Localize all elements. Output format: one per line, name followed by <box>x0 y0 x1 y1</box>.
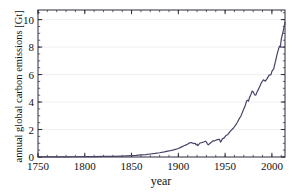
x-tick-label: 1900 <box>167 161 189 172</box>
y-axis-label: annual global carbon emissions [Gt] <box>13 13 24 163</box>
chart-figure: 0246810 175018001850190019502000 year an… <box>0 0 295 193</box>
x-tick-label: 1750 <box>27 161 49 172</box>
data-series-line <box>38 22 285 157</box>
plot-frame <box>38 10 285 157</box>
x-tick-label: 1800 <box>74 161 96 172</box>
x-tick-label: 1850 <box>121 161 143 172</box>
axis-major-ticks <box>38 10 285 157</box>
gridlines <box>39 20 284 130</box>
x-tick-label: 2000 <box>261 161 283 172</box>
x-axis-label: year <box>151 174 172 189</box>
x-tick-label: 1950 <box>214 161 236 172</box>
axis-minor-ticks <box>38 10 285 157</box>
